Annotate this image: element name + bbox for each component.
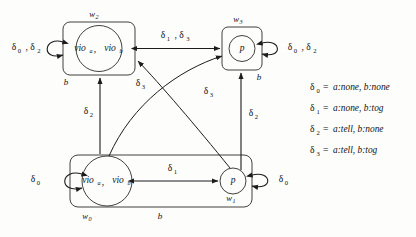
edge-label-top-d3: , δ [174,30,184,40]
legend-definition-2: a:tell, b:none [333,124,384,134]
state-sub-w2-b: b [119,48,122,54]
loop-label-w0-d0: δ [31,174,36,184]
loop-label-w1-d0: δ [279,174,284,184]
loop-label-w3-d2: , δ [301,42,311,52]
world-label-w2-sub: 2 [95,14,98,20]
edge-label-right-d2-sub: 2 [255,113,258,120]
state-label-w0-viob: vio [112,175,124,185]
legend-eq-1: = [323,102,328,113]
self-loop-w0 [65,173,82,189]
edge-label-left-d2-sub: 2 [90,111,93,118]
loop-label-w2-d2-sub: 2 [37,47,40,54]
loop-label-w2-d0-sub: 0 [18,47,22,54]
accessibility-label-w2-b: b [64,77,69,87]
edge-label-top-d1-sub: 1 [167,35,170,42]
diagram-canvas: w 2 vio a , vio b b δ 0 , δ 2 w 3 p b δ … [0,0,416,237]
legend-definition-0: a:none, b:none [333,82,390,92]
self-loop-w3 [262,42,277,55]
state-sub-w2-a: a [89,48,92,54]
world-label-w1: w [226,193,232,203]
edge-label-left-d2: δ [84,106,89,116]
loop-label-w3-d0: δ [288,42,293,52]
state-label-w2-vioa: vio [74,43,86,53]
edge-label-top-d1: δ [161,30,166,40]
edge-label-arc-left-d3: δ [136,78,141,88]
world-label-w1-sub: 1 [232,198,235,204]
legend-definition-3: a:tell, b:tog [333,145,378,155]
legend-eq-2: = [323,123,328,134]
world-label-w3-sub: 3 [238,19,242,25]
state-sep-w0: , [102,177,104,187]
edge-arc-w0-w3 [109,56,222,156]
legend-symbol-0: δ [310,81,315,92]
edge-label-arc-right-d3: δ [204,86,209,96]
legend-symbol-1-sub: 1 [317,108,320,115]
edge-label-bottom-d1: δ [168,163,173,173]
legend-row-3: δ 3 = a:tell, b:tog [310,144,378,157]
state-sep-w2: , [94,44,96,54]
legend-symbol-3: δ [310,144,315,155]
edge-label-arc-left-d3-sub: 3 [142,83,146,90]
legend-row-1: δ 1 = a:none, b:tog [310,102,384,115]
state-label-w1-p: p [230,175,236,185]
transition-diagram: w 2 vio a , vio b b δ 0 , δ 2 w 3 p b δ … [0,0,416,237]
legend-symbol-3-sub: 3 [317,150,321,157]
accessibility-label-w3-b: b [257,72,262,82]
world-label-w0: w [82,211,88,221]
legend-definition-1: a:none, b:tog [333,103,384,113]
legend-symbol-0-sub: 0 [317,87,321,94]
state-sub-w0-a: a [97,180,100,186]
loop-label-w2-d0: δ [12,42,17,52]
legend: δ 0 = a:none, b:none δ 1 = a:none, b:tog… [310,81,390,157]
state-sub-w0-b: b [127,180,130,186]
edge-label-bottom-d1-sub: 1 [174,168,177,175]
legend-symbol-2-sub: 2 [317,129,320,136]
legend-eq-0: = [323,81,328,92]
state-label-w2-viob: vio [104,43,116,53]
legend-symbol-2: δ [310,123,315,134]
state-label-w0-vioa: vio [82,175,94,185]
world-label-w2: w [89,9,95,19]
self-loop-w1 [252,174,268,187]
world-label-w3: w [233,14,239,24]
loop-label-w1-d0-sub: 0 [285,179,289,186]
legend-row-0: δ 0 = a:none, b:none [310,81,390,94]
legend-symbol-1: δ [310,102,315,113]
edge-label-right-d2: δ [249,108,254,118]
legend-row-2: δ 2 = a:tell, b:none [310,123,384,136]
world-label-w0-sub: 0 [88,216,91,222]
edge-label-arc-right-d3-sub: 3 [210,91,214,98]
loop-label-w3-d0-sub: 0 [294,47,298,54]
self-loop-w2 [47,41,63,56]
loop-label-w2-d2: , δ [25,42,35,52]
edge-arc-w1-w2 [138,61,230,168]
loop-label-w3-d2-sub: 2 [313,47,316,54]
accessibility-label-bottom-b: b [158,211,163,221]
loop-label-w0-d0-sub: 0 [37,179,41,186]
state-label-w3-p: p [239,43,245,53]
legend-eq-3: = [323,144,328,155]
edge-label-top-d3-sub: 3 [186,35,190,42]
